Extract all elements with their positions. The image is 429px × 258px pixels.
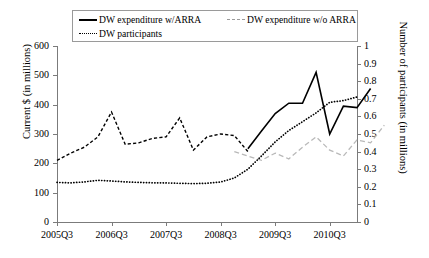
series-dw-expenditure-pre2009 <box>57 112 248 160</box>
chart-figure: DW expenditure w/ARRA DW expenditure w/o… <box>0 0 429 258</box>
series-dw-expenditure-w-arra <box>248 72 371 148</box>
series-dw-expenditure-wo-arra <box>234 125 384 160</box>
chart-plot-area <box>0 0 429 258</box>
